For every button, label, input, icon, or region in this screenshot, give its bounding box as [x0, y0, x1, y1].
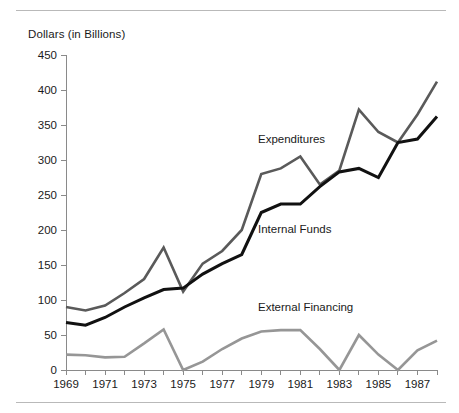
data-series-group — [66, 82, 437, 370]
x-axis-ticks — [66, 370, 437, 375]
series-annotations: ExpendituresInternal FundsExternal Finan… — [258, 133, 353, 313]
y-tick-label: 450 — [38, 49, 57, 61]
x-tick-label: 1969 — [53, 378, 79, 390]
x-tick-label: 1983 — [327, 378, 353, 390]
series-label-external-financing: External Financing — [258, 301, 353, 313]
y-tick-label: 50 — [44, 329, 57, 341]
y-tick-label: 150 — [38, 259, 57, 271]
y-axis-ticks — [61, 55, 66, 370]
y-axis-tick-labels: 450400350300250200150100500 — [38, 49, 57, 376]
y-tick-label: 350 — [38, 119, 57, 131]
y-tick-label: 250 — [38, 189, 57, 201]
x-tick-label: 1973 — [131, 378, 157, 390]
x-tick-label: 1981 — [288, 378, 314, 390]
y-tick-label: 0 — [51, 364, 57, 376]
x-tick-label: 1971 — [92, 378, 118, 390]
x-tick-label: 1987 — [405, 378, 431, 390]
y-tick-label: 200 — [38, 224, 57, 236]
x-tick-label: 1979 — [248, 378, 274, 390]
chart-figure: Dollars (in Billions) 450400350300250200… — [0, 0, 459, 413]
series-label-expenditures: Expenditures — [258, 133, 325, 145]
line-chart-plot: 450400350300250200150100500 196919711973… — [0, 0, 459, 413]
y-tick-label: 300 — [38, 154, 57, 166]
series-line-expenditures — [66, 82, 437, 311]
series-label-internal-funds: Internal Funds — [258, 223, 332, 235]
y-tick-label: 100 — [38, 294, 57, 306]
x-tick-label: 1985 — [366, 378, 392, 390]
series-line-external-financing — [66, 329, 437, 370]
x-axis-tick-labels: 1969197119731975197719791981198319851987 — [53, 378, 430, 390]
x-tick-label: 1975 — [170, 378, 196, 390]
y-tick-label: 400 — [38, 84, 57, 96]
x-tick-label: 1977 — [209, 378, 235, 390]
